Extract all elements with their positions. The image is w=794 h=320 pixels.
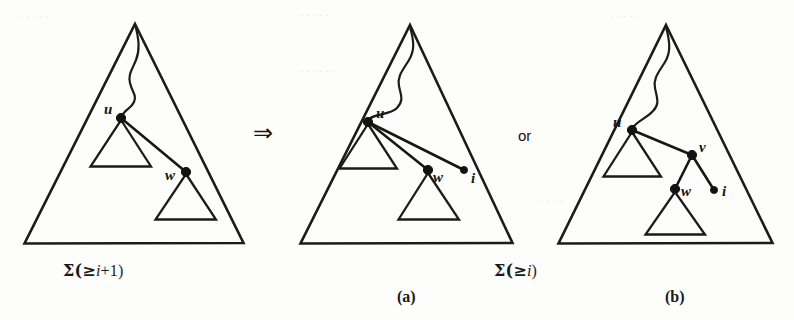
caption-left-tail: +1) [101, 262, 124, 279]
node-label-w-left: w [165, 167, 176, 183]
node-label-w-middle: w [433, 169, 444, 185]
panel-label-a: (a) [397, 288, 416, 306]
node-i-middle [460, 166, 467, 173]
node-label-u-middle: u [376, 105, 384, 121]
implies-arrow-symbol: ⇒ [253, 121, 273, 145]
inner-triangle-left-1 [91, 120, 152, 167]
node-label-w-right: w [681, 183, 692, 199]
caption-middle-sigma: Σ(≥ [494, 261, 527, 280]
edge-v-i-right [692, 155, 714, 190]
node-w-middle [423, 165, 432, 174]
outer-triangle-middle [301, 25, 513, 244]
node-v-right [687, 150, 696, 159]
node-i-right [710, 186, 717, 193]
caption-middle-tail: ) [532, 262, 538, 279]
node-w-left [181, 167, 190, 176]
edge-u-w-middle [368, 122, 428, 170]
panel-label-b: (b) [665, 288, 685, 306]
caption-middle: Σ(≥i) [494, 261, 537, 280]
outer-triangle-right [559, 25, 773, 244]
inner-triangle-right-2 [646, 192, 706, 235]
panel-right: u v w i [559, 25, 773, 244]
panel-middle: u w i [301, 25, 513, 244]
node-u-left [116, 113, 125, 122]
node-w-right [670, 184, 679, 193]
wavy-path-left [122, 26, 139, 116]
or-connector-text: or [518, 127, 531, 144]
edge-u-v-right [632, 130, 692, 155]
node-label-i-right: i [722, 183, 727, 199]
panel-left: u w [25, 24, 244, 244]
caption-left: Σ(≥i+1) [63, 261, 124, 280]
node-label-u-right: u [613, 114, 621, 130]
node-u-right [627, 125, 636, 134]
node-label-i-middle: i [471, 170, 476, 186]
figure-page: . . . . . . . . . . . . . . . . . . . . … [0, 0, 794, 320]
node-label-u-left: u [104, 101, 112, 117]
node-label-v-right: v [699, 139, 706, 155]
node-u-middle [363, 117, 372, 126]
wavy-path-right [633, 27, 669, 128]
edge-u-w-left [121, 118, 186, 172]
inner-triangle-middle-2 [399, 173, 460, 220]
caption-left-sigma: Σ(≥ [63, 261, 96, 280]
